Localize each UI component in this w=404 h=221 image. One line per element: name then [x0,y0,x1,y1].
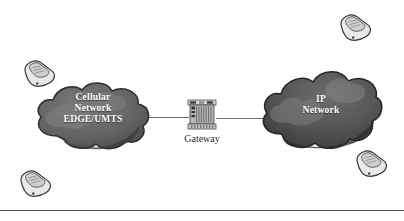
network-diagram: Cellular Network EDGE/UMTS IP Network [0,0,404,221]
gateway-label: Gateway [166,133,238,144]
mobile-phone-top-right [332,4,379,51]
cellular-network-cloud: Cellular Network EDGE/UMTS [33,78,153,154]
mobile-phone-bottom-left [12,160,59,207]
gateway-icon [186,99,218,132]
bottom-divider [0,210,404,211]
ip-network-cloud: IP Network [259,64,383,158]
